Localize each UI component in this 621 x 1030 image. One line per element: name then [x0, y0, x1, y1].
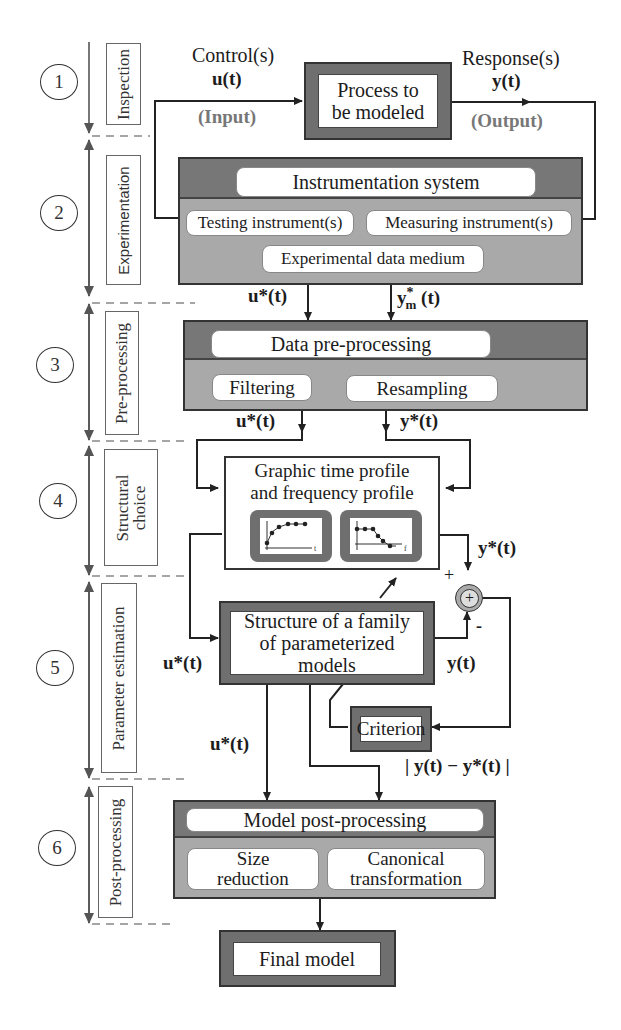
model-line: Structure of a family — [244, 610, 410, 632]
process-box: Process to be modeled — [304, 62, 452, 140]
exp-output-y: y*m (t) — [397, 285, 440, 313]
preprocessing-title: Data pre-processing — [211, 330, 491, 358]
output-label: (Output) — [471, 110, 543, 132]
canonical-transformation-block: Canonical transformation — [327, 848, 485, 890]
response-signal: y(t) — [492, 70, 520, 92]
ym-suffix: (t) — [416, 287, 440, 308]
stage-label-text: Parameter estimation — [111, 606, 128, 750]
process-line: Process to — [337, 79, 419, 101]
stage-number-2: 2 — [40, 195, 78, 231]
instrumentation-panel: Instrumentation system Testing instrumen… — [178, 157, 583, 285]
postprocessing-title: Model post-processing — [186, 808, 484, 832]
structural-output-y: y*(t) — [478, 537, 516, 559]
size-line: reduction — [217, 869, 289, 889]
sum-plus-sign: + — [444, 565, 454, 586]
filtering-block: Filtering — [212, 374, 312, 401]
control-signal: u(t) — [212, 68, 242, 90]
model-line: of parameterized — [260, 632, 395, 654]
pre-output-u: u*(t) — [236, 410, 275, 432]
freq-axis-label: f — [404, 544, 407, 553]
stage-number-5: 5 — [36, 650, 74, 686]
stage-label-text: Pre-processing — [114, 322, 131, 423]
model-family-box: Structure of a family of parameterized m… — [219, 601, 435, 685]
size-reduction-block: Size reduction — [187, 848, 319, 890]
sum-junction: + — [455, 584, 483, 612]
size-line: Size — [237, 849, 270, 869]
estimation-input-u: u*(t) — [163, 652, 202, 674]
model-family-label: Structure of a family of parameterized m… — [230, 611, 424, 675]
model-output-y: y(t) — [447, 652, 475, 674]
final-model-label: Final model — [233, 942, 381, 976]
stage-number-4: 4 — [39, 483, 77, 519]
stage-number-1: 1 — [40, 64, 78, 100]
instrumentation-title: Instrumentation system — [236, 167, 536, 197]
ym-sub: m — [406, 297, 417, 312]
sum-plus-icon: + — [460, 589, 479, 608]
control-label: Control(s) — [192, 44, 274, 67]
stage-label-line: choice — [131, 474, 148, 541]
graphic-profile-box: Graphic time profile and frequency profi… — [224, 456, 440, 570]
time-profile-plot: t — [250, 510, 332, 562]
frequency-profile-plot: f — [340, 510, 422, 562]
final-model-box: Final model — [219, 930, 396, 987]
sum-minus-sign: - — [476, 616, 482, 637]
stage-label-experimentation: Experimentation — [106, 155, 141, 285]
graphic-profile-title: Graphic time profile and frequency profi… — [226, 460, 438, 504]
input-label: (Input) — [198, 106, 256, 128]
stage-label-structural-choice: Structuralchoice — [104, 449, 158, 566]
preprocessing-panel: Data pre-processing Filtering Resampling — [183, 320, 588, 411]
measuring-instruments: Measuring instrument(s) — [366, 210, 572, 236]
stage-label-text: Structuralchoice — [114, 474, 148, 541]
exp-output-u: u*(t) — [248, 285, 287, 307]
criterion-label: Criterion — [360, 716, 422, 742]
stage-label-text: Experimentation — [115, 166, 132, 274]
stage-label-line: Structural — [114, 474, 131, 541]
graphic-title-line: Graphic time profile — [226, 460, 438, 482]
criterion-box: Criterion — [350, 706, 432, 752]
graphic-title-line: and frequency profile — [226, 482, 438, 504]
pre-output-y: y*(t) — [400, 410, 438, 432]
postprocessing-panel: Model post-processing Size reduction Can… — [173, 800, 496, 899]
stage-number-3: 3 — [36, 347, 74, 383]
experimental-data-medium: Experimental data medium — [262, 245, 484, 273]
process-line: be modeled — [332, 101, 425, 123]
error-expression: | y(t) − y*(t) | — [405, 755, 510, 777]
canon-line: transformation — [350, 869, 462, 889]
stage-label-text: Post-processing — [107, 798, 124, 906]
process-box-label: Process to be modeled — [318, 74, 438, 128]
stage-label-parameter-estimation: Parameter estimation — [101, 583, 137, 773]
stage-label-preprocessing: Pre-processing — [105, 311, 139, 435]
stage-label-inspection: Inspection — [106, 43, 141, 125]
canon-line: Canonical — [367, 849, 444, 869]
resampling-block: Resampling — [346, 375, 498, 402]
stage-label-text: Inspection — [115, 49, 132, 120]
stage-label-postprocessing: Post-processing — [98, 786, 133, 918]
model-down-u: u*(t) — [210, 733, 249, 755]
testing-instruments: Testing instrument(s) — [186, 210, 354, 236]
stage-number-6: 6 — [38, 830, 76, 866]
model-line: models — [298, 654, 356, 676]
response-label: Response(s) — [462, 47, 560, 70]
